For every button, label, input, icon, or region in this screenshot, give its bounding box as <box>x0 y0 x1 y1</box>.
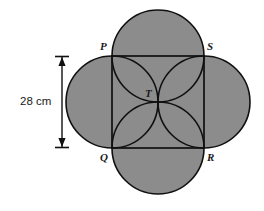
geometry-figure: P S Q R T 28 cm <box>0 0 264 211</box>
dimension-arrowhead-bottom-icon <box>58 138 65 147</box>
dimension-arrowhead-top-icon <box>58 57 65 66</box>
vertex-label-p: P <box>100 41 107 52</box>
center-label-t: T <box>145 88 152 99</box>
vertex-label-q: Q <box>100 152 108 163</box>
vertex-label-s: S <box>207 41 213 52</box>
dimension-label: 28 cm <box>20 96 51 108</box>
vertex-label-r: R <box>207 152 214 163</box>
